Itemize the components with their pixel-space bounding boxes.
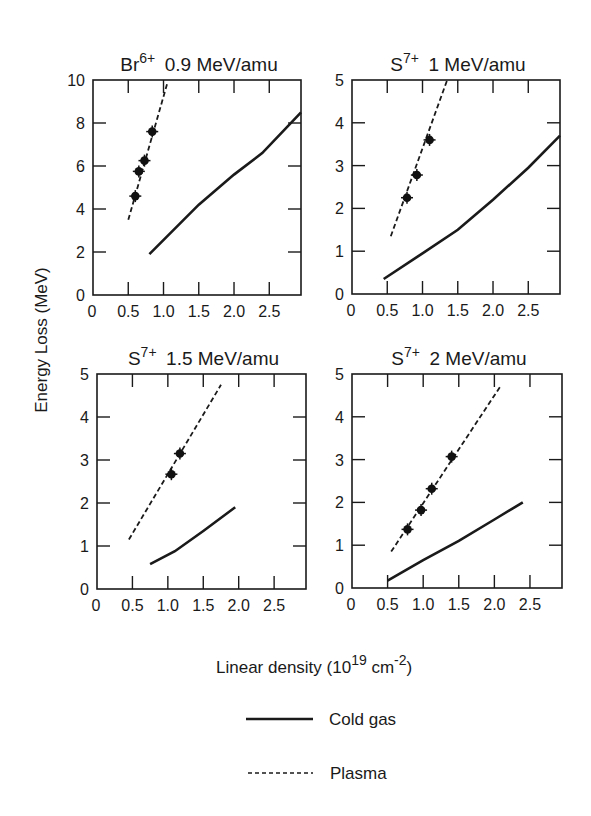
data-point-marker	[174, 448, 186, 460]
y-tick-label: 1	[335, 243, 344, 260]
x-axis-title-main: Linear density (10	[216, 658, 351, 677]
data-point-marker	[411, 169, 423, 181]
panel-title: Br6+ 0.9 MeV/amu	[120, 50, 277, 75]
y-tick-label: 3	[335, 452, 344, 469]
y-tick-label: 0	[335, 286, 344, 303]
data-point-marker	[146, 126, 158, 138]
x-tick-label: 2.0	[482, 302, 504, 319]
x-tick-label: 0	[347, 302, 356, 319]
y-tick-label: 1	[80, 538, 89, 555]
x-tick-label: 1.5	[448, 596, 470, 613]
y-tick-label: 3	[80, 452, 89, 469]
y-tick-label: 5	[335, 72, 344, 89]
panel-title: S7+ 2 MeV/amu	[391, 344, 526, 369]
x-axis-title-end: )	[407, 658, 413, 677]
panel-s7-2: 00.51.01.52.02.5012345S7+ 2 MeV/amu	[335, 344, 562, 613]
plot-frame	[93, 80, 301, 295]
panel-br6-0.9: 00.51.01.52.02.50246810Br6+ 0.9 MeV/amu	[67, 50, 301, 320]
x-tick-label: 2.0	[228, 597, 250, 614]
panel-title: S7+ 1.5 MeV/amu	[128, 344, 279, 369]
data-point-marker	[446, 451, 458, 463]
data-point-marker	[129, 190, 141, 202]
data-point-marker	[402, 523, 414, 535]
legend: Cold gas Plasma	[246, 710, 396, 783]
x-tick-label: 2.5	[263, 597, 285, 614]
data-point-marker	[133, 165, 145, 177]
y-axis-title: Energy Loss (MeV)	[32, 267, 51, 413]
x-tick-label: 0.5	[121, 597, 143, 614]
x-tick-label: 1.0	[157, 597, 179, 614]
x-tick-label: 0.5	[117, 303, 139, 320]
x-tick-label: 1.0	[152, 303, 174, 320]
legend-plasma-label: Plasma	[330, 764, 387, 783]
panel-s7-1: 00.51.01.52.02.5012345S7+ 1 MeV/amu	[335, 50, 560, 319]
y-tick-label: 0	[335, 580, 344, 597]
y-tick-label: 4	[335, 409, 344, 426]
y-tick-label: 4	[335, 115, 344, 132]
data-point-marker	[424, 134, 436, 146]
y-tick-label: 4	[80, 409, 89, 426]
y-tick-label: 0	[80, 581, 89, 598]
x-tick-label: 0.5	[376, 302, 398, 319]
x-axis-title-exp2: -2	[394, 652, 407, 668]
x-axis-title: Linear density (1019 cm-2)	[216, 652, 412, 677]
y-tick-label: 0	[76, 287, 85, 304]
y-tick-label: 2	[335, 200, 344, 217]
cold-gas-line	[384, 136, 560, 279]
x-tick-label: 0	[88, 303, 97, 320]
cold-gas-line	[388, 502, 523, 580]
plot-frame	[97, 374, 306, 589]
x-tick-label: 2.0	[483, 596, 505, 613]
figure: 00.51.01.52.02.50246810Br6+ 0.9 MeV/amu …	[0, 0, 591, 816]
cold-gas-line	[150, 507, 235, 564]
y-tick-label: 3	[335, 158, 344, 175]
x-axis-title-mid: cm	[367, 658, 394, 677]
data-point-marker	[415, 504, 427, 516]
x-tick-label: 1.5	[188, 303, 210, 320]
x-tick-label: 1.5	[192, 597, 214, 614]
x-tick-label: 0	[92, 597, 101, 614]
plot-frame	[352, 80, 560, 294]
x-tick-label: 1.5	[447, 302, 469, 319]
panel-s7-1.5: 00.51.01.52.02.5012345S7+ 1.5 MeV/amu	[80, 344, 306, 614]
cold-gas-line	[149, 112, 301, 254]
plasma-line	[129, 385, 221, 540]
data-point-marker	[138, 155, 150, 167]
data-point-marker	[165, 468, 177, 480]
x-tick-label: 1.0	[411, 302, 433, 319]
x-tick-label: 0	[347, 596, 356, 613]
y-tick-label: 2	[80, 495, 89, 512]
plasma-line	[391, 80, 447, 236]
x-tick-label: 2.5	[519, 596, 541, 613]
y-tick-label: 5	[335, 366, 344, 383]
plot-frame	[352, 374, 562, 588]
x-tick-label: 1.0	[412, 596, 434, 613]
x-tick-label: 2.0	[223, 303, 245, 320]
y-tick-label: 4	[76, 201, 85, 218]
x-tick-label: 2.5	[517, 302, 539, 319]
y-tick-label: 6	[76, 158, 85, 175]
y-tick-label: 2	[76, 244, 85, 261]
x-tick-label: 2.5	[258, 303, 280, 320]
x-tick-label: 0.5	[376, 596, 398, 613]
x-axis-title-exp1: 19	[351, 652, 367, 668]
y-tick-label: 10	[67, 72, 85, 89]
y-tick-label: 5	[80, 366, 89, 383]
y-tick-label: 8	[76, 115, 85, 132]
y-tick-label: 2	[335, 494, 344, 511]
panel-title: S7+ 1 MeV/amu	[390, 50, 525, 75]
legend-cold-gas-label: Cold gas	[329, 710, 396, 729]
y-tick-label: 1	[335, 537, 344, 554]
